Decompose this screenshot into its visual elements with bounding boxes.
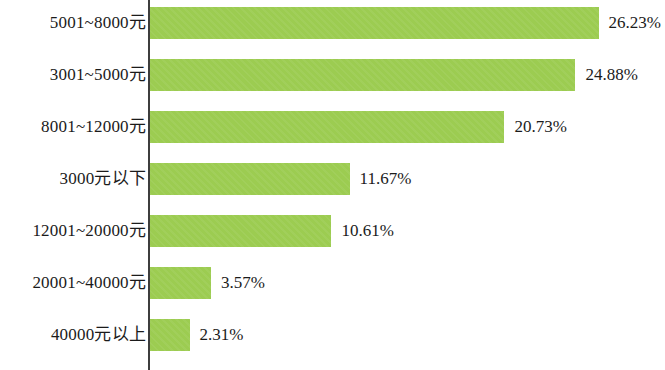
category-label: 20001~40000元 bbox=[32, 267, 146, 299]
value-label: 20.73% bbox=[514, 111, 566, 143]
bar-row: 40000元以上2.31% bbox=[0, 319, 665, 351]
value-label: 10.61% bbox=[341, 215, 393, 247]
category-label: 12001~20000元 bbox=[32, 215, 146, 247]
category-label: 3000元以下 bbox=[60, 163, 146, 195]
bar bbox=[150, 319, 190, 351]
bar-row: 8001~12000元20.73% bbox=[0, 111, 665, 143]
bar bbox=[150, 267, 211, 299]
value-label: 26.23% bbox=[609, 7, 661, 39]
bar-row: 5001~8000元26.23% bbox=[0, 7, 665, 39]
value-label: 11.67% bbox=[360, 163, 412, 195]
bar bbox=[150, 111, 504, 143]
category-label: 8001~12000元 bbox=[41, 111, 146, 143]
bar-chart: 5001~8000元26.23%3001~5000元24.88%8001~120… bbox=[0, 0, 665, 370]
bar bbox=[150, 7, 599, 39]
bar-row: 3001~5000元24.88% bbox=[0, 59, 665, 91]
bar-row: 20001~40000元3.57% bbox=[0, 267, 665, 299]
bar-row: 12001~20000元10.61% bbox=[0, 215, 665, 247]
bar bbox=[150, 59, 575, 91]
category-label: 5001~8000元 bbox=[50, 7, 146, 39]
category-label: 3001~5000元 bbox=[50, 59, 146, 91]
bar bbox=[150, 215, 331, 247]
value-label: 3.57% bbox=[221, 267, 265, 299]
value-label: 24.88% bbox=[585, 59, 637, 91]
bar-row: 3000元以下11.67% bbox=[0, 163, 665, 195]
category-label: 40000元以上 bbox=[51, 319, 146, 351]
bar bbox=[150, 163, 350, 195]
value-label: 2.31% bbox=[200, 319, 244, 351]
